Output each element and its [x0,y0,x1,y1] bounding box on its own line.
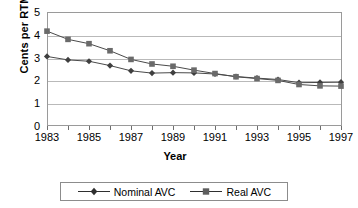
y-tick-label: 4 [26,30,40,40]
x-tick-label: 1993 [237,131,277,143]
x-tick-mark [341,126,342,130]
x-tick-mark [173,126,174,130]
data-point-diamond [44,53,50,59]
x-tick-mark [320,126,321,130]
legend-label-nominal-avc: Nominal AVC [114,186,176,198]
data-point-square [338,83,344,89]
data-point-square [191,67,197,73]
x-tick-mark [89,126,90,130]
y-tick-label: 3 [26,53,40,63]
x-tick-mark [257,126,258,130]
data-point-square [254,76,260,82]
legend-marker-square-icon [189,186,223,197]
data-point-square [44,28,50,34]
data-point-square [296,82,302,88]
x-tick-label: 1987 [111,131,151,143]
x-tick-mark [215,126,216,130]
data-point-diamond [65,57,71,63]
data-point-square [107,48,113,54]
chart-legend: Nominal AVC Real AVC [60,182,288,201]
data-point-diamond [170,70,176,76]
data-point-square [149,61,155,67]
x-tick-mark [194,126,195,130]
data-point-diamond [107,62,113,68]
x-tick-label: 1995 [279,131,319,143]
x-tick-label: 1983 [27,131,67,143]
legend-marker-diamond-icon [77,186,111,197]
data-point-diamond [86,58,92,64]
y-tick-label: 1 [26,98,40,108]
x-tick-label: 1991 [195,131,235,143]
series-layer [47,12,342,126]
x-axis-title: Year [0,150,350,162]
x-tick-mark [236,126,237,130]
data-point-square [317,83,323,89]
legend-item-nominal-avc: Nominal AVC [77,186,176,198]
legend-label-real-avc: Real AVC [226,186,271,198]
data-point-square [212,71,218,77]
data-point-diamond [128,68,134,74]
data-point-square [170,63,176,69]
x-tick-mark [278,126,279,130]
data-point-square [275,78,281,84]
series-line [47,31,341,86]
x-tick-label: 1997 [321,131,358,143]
data-point-square [65,37,71,43]
x-tick-mark [68,126,69,130]
x-tick-mark [152,126,153,130]
x-tick-mark [110,126,111,130]
data-point-square [233,74,239,80]
x-tick-label: 1985 [69,131,109,143]
data-point-square [86,41,92,47]
x-tick-mark [299,126,300,130]
y-tick-label: 2 [26,75,40,85]
legend-item-real-avc: Real AVC [189,186,271,198]
y-tick-label: 5 [26,7,40,17]
data-point-diamond [149,70,155,76]
data-point-square [128,57,134,63]
y-tick-label: 0 [26,121,40,131]
x-tick-mark [47,126,48,130]
x-tick-label: 1989 [153,131,193,143]
x-tick-mark [131,126,132,130]
